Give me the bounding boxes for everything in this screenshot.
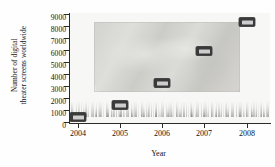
- data-point-marker: [239, 18, 255, 27]
- x-tick-label: 2005: [112, 130, 128, 138]
- data-point-marker: [154, 79, 170, 88]
- y-tick-label: 3000: [51, 86, 66, 94]
- x-tick-mark: [78, 124, 79, 128]
- y-axis-line: [69, 13, 70, 124]
- y-tick-label: 7000: [51, 38, 66, 46]
- y-axis-title: Number of digital theater screens worldw…: [10, 0, 28, 130]
- y-tick-label: 1000: [51, 110, 66, 118]
- data-point-marker: [70, 113, 86, 122]
- y-tick-label: 2000: [51, 98, 66, 106]
- y-tick-label: 0: [62, 122, 66, 130]
- y-tick-label: 9000: [51, 14, 66, 22]
- x-axis-line: [69, 123, 271, 124]
- y-tick-label: 8000: [51, 26, 66, 34]
- y-tick-label: 4000: [51, 74, 66, 82]
- x-tick-label: 2008: [239, 130, 255, 138]
- x-tick-mark: [247, 124, 248, 128]
- x-tick-mark: [204, 124, 205, 128]
- x-tick-label: 2007: [196, 130, 212, 138]
- baseline-texture-band: [71, 101, 269, 117]
- x-tick-label: 2006: [154, 130, 170, 138]
- chart-figure: Number of digital theater screens worldw…: [0, 0, 275, 167]
- y-tick-label: 6000: [51, 50, 66, 58]
- x-axis-title-text: Year: [151, 149, 166, 158]
- x-tick-mark: [120, 124, 121, 128]
- y-axis-tick-labels: 9000 8000 7000 6000 5000 4000 3000 2000 …: [36, 14, 66, 122]
- y-tick-label: 5000: [51, 62, 66, 70]
- x-axis-title: Year: [0, 149, 275, 158]
- data-point-marker: [196, 47, 212, 56]
- x-tick-mark: [162, 124, 163, 128]
- data-point-marker: [112, 101, 128, 110]
- x-tick-label: 2004: [70, 130, 86, 138]
- x-axis-tick-labels: 2004 2005 2006 2007 2008: [0, 130, 275, 144]
- plot-area: [70, 13, 270, 123]
- y-axis-title-line-2: theater screens worldwide: [19, 0, 28, 130]
- y-axis-title-line-1: Number of digital: [10, 0, 19, 130]
